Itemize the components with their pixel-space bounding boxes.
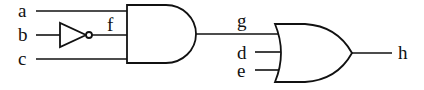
logic-circuit-diagram: a b c f g d e h <box>0 0 424 90</box>
not-gate-bubble-icon <box>86 32 92 38</box>
or-gate-icon <box>275 24 352 82</box>
output-label-h: h <box>398 42 408 63</box>
not-gate-triangle-icon <box>60 23 86 47</box>
input-label-b: b <box>18 24 28 45</box>
not-gate <box>60 23 92 47</box>
signal-label-g: g <box>237 10 247 31</box>
signal-label-f: f <box>107 14 114 35</box>
input-label-e: e <box>237 60 245 81</box>
input-label-c: c <box>18 48 26 69</box>
input-label-a: a <box>18 0 27 21</box>
and-gate-icon <box>127 5 196 63</box>
